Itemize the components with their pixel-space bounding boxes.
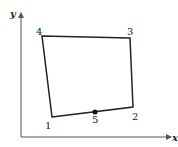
y-axis-label: y xyxy=(9,8,17,19)
node-label-5: 5 xyxy=(92,114,98,125)
node-label-1: 1 xyxy=(45,120,51,131)
node-label-4: 4 xyxy=(36,26,42,37)
quadrilateral-element xyxy=(42,36,133,117)
finite-element-diagram: y x 1 2 3 4 5 xyxy=(0,0,178,147)
node-label-3: 3 xyxy=(127,26,133,37)
x-axis-label: x xyxy=(171,132,178,143)
node-label-2: 2 xyxy=(132,111,138,122)
